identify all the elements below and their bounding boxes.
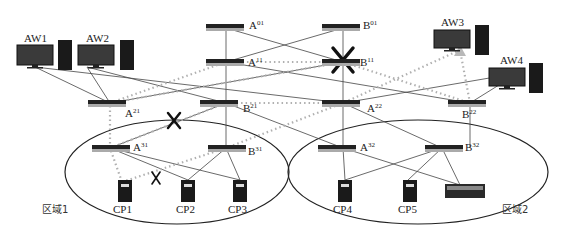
switch-icon-a01 xyxy=(206,24,244,31)
controller-icon-cp4 xyxy=(338,180,352,202)
switch-icon-a31 xyxy=(92,145,130,152)
switch-icon-b21 xyxy=(200,100,238,107)
switch-icon-b32 xyxy=(425,145,463,152)
switch-label-b32: B32 xyxy=(465,141,480,153)
controller-icon-cp1 xyxy=(118,180,132,202)
label-aw3: AW3 xyxy=(441,16,464,28)
switch-icon-a11 xyxy=(206,59,244,66)
switch-icon-a32 xyxy=(318,145,356,152)
switch-label-a31: A31 xyxy=(133,141,148,153)
failure-x-icon-link-a31-cp1 xyxy=(152,172,160,184)
controller-icon-cp5 xyxy=(403,180,417,202)
switch-icon-a21 xyxy=(88,100,126,107)
switch-label-b31: B31 xyxy=(248,145,263,157)
network-diagram: A01 B01 A11 B11 A21 B21 A22 B22 A31 B31 … xyxy=(0,0,562,239)
zone-label-1: 区域1 xyxy=(42,203,68,215)
switch-label-a22: A22 xyxy=(367,102,382,114)
label-cp2: CP2 xyxy=(176,203,195,215)
failure-marks xyxy=(152,48,353,184)
switch-icon-b11 xyxy=(322,59,360,66)
controller-icon-cp2 xyxy=(181,180,195,202)
controller-labels: CP1 CP2 CP3 CP4 CP5 xyxy=(113,203,417,215)
zone-label-2: 区域2 xyxy=(502,203,528,215)
label-cp3: CP3 xyxy=(228,203,247,215)
workstation-icon-aw2 xyxy=(78,40,134,70)
switch-label-a01: A01 xyxy=(249,19,264,31)
switch-label-a21: A21 xyxy=(125,107,140,119)
label-aw1: AW1 xyxy=(24,32,47,44)
label-cp5: CP5 xyxy=(398,203,417,215)
switch-label-a11: A11 xyxy=(248,56,263,68)
label-aw2: AW2 xyxy=(86,32,109,44)
controllers xyxy=(118,180,485,202)
switch-label-b22: B22 xyxy=(462,108,477,120)
io-rack-icon xyxy=(445,184,485,198)
switch-label-a32: A32 xyxy=(360,141,375,153)
workstation-icon-aw4 xyxy=(489,63,543,93)
label-cp4: CP4 xyxy=(333,203,352,215)
label-aw4: AW4 xyxy=(500,54,523,66)
switch-icon-b01 xyxy=(322,24,360,31)
switch-icon-b31 xyxy=(208,145,246,152)
switch-label-b11: B11 xyxy=(360,56,375,68)
workstation-icon-aw1 xyxy=(17,40,72,70)
switch-icon-a22 xyxy=(322,100,360,107)
label-cp1: CP1 xyxy=(113,203,132,215)
switch-label-b01: B01 xyxy=(363,19,378,31)
switch-icon-b22 xyxy=(448,100,486,107)
controller-icon-cp3 xyxy=(233,180,247,202)
